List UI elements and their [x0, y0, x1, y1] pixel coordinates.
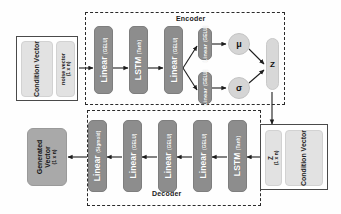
generated-vector-label: Generated Vector (1 x n)	[36, 140, 58, 175]
condition-vector-label: Condition Vector	[33, 41, 41, 97]
encoder-layer-linear-2-label: Linear (GELU)	[169, 38, 179, 83]
noise-vector-panel: noise vector (1 x n)	[56, 41, 75, 97]
encoder-group	[85, 12, 285, 105]
mu-node-label: μ	[236, 39, 242, 49]
sigma-node: σ	[228, 77, 250, 99]
decoder-input-block: Z (1 x n) Condition Vector	[260, 124, 328, 190]
encoder-layer-lstm: LSTM (Tanh)	[129, 26, 148, 94]
decoder-layer-linear-sigmoid-label: Linear (Sigmoid)	[93, 131, 103, 182]
generated-vector-block: Generated Vector (1 x n)	[27, 128, 67, 186]
decoder-layer-lstm: LSTM (Tanh)	[228, 120, 247, 192]
encoder-layer-lstm-label: LSTM (Tanh)	[134, 40, 144, 80]
diagram-canvas: Encoder Decoder Condition Vector noise v…	[0, 0, 341, 214]
condition-vector-panel: Condition Vector	[21, 41, 53, 97]
encoder-group-label: Encoder	[176, 15, 205, 22]
decoder-z-label: Z (1 x n)	[267, 151, 280, 166]
encoder-layer-linear-2: Linear (GELU)	[164, 26, 183, 94]
decoder-layer-linear-3: Linear (GELU)	[123, 120, 142, 192]
decoder-layer-lstm-label: LSTM (Tanh)	[233, 136, 243, 176]
mu-head-linear: Linear (GELU)	[198, 28, 212, 60]
decoder-layer-linear-1: Linear (GELU)	[193, 120, 212, 192]
decoder-layer-linear-1-label: Linear (GELU)	[198, 134, 208, 179]
decoder-layer-linear-3-label: Linear (GELU)	[128, 134, 138, 179]
encoder-layer-linear-1-label: Linear (GELU)	[99, 38, 109, 83]
decoder-layer-linear-2-label: Linear (GELU)	[163, 134, 173, 179]
sigma-head-linear: Linear (GELU)	[198, 72, 212, 104]
latent-z-label: Z	[270, 60, 275, 69]
decoder-z-panel: Z (1 x n)	[265, 130, 282, 186]
decoder-condition-vector-label: Condition Vector	[300, 130, 308, 186]
sigma-head-linear-label: Linear (GELU)	[202, 70, 208, 107]
decoder-layer-linear-sigmoid: Linear (Sigmoid)	[88, 120, 107, 192]
mu-node: μ	[228, 33, 250, 55]
encoder-layer-linear-1: Linear (GELU)	[94, 26, 113, 94]
latent-z-node: Z	[266, 38, 279, 90]
decoder-condition-vector-panel: Condition Vector	[285, 130, 323, 186]
input-block: Condition Vector noise vector (1 x n)	[16, 36, 78, 101]
noise-vector-label: noise vector (1 x n)	[60, 53, 72, 85]
mu-head-linear-label: Linear (GELU)	[202, 26, 208, 63]
decoder-layer-linear-2: Linear (GELU)	[158, 120, 177, 192]
sigma-node-label: σ	[236, 83, 242, 93]
